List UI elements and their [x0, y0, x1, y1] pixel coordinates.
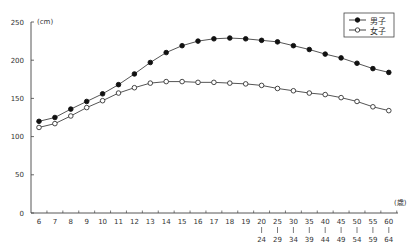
open-circle-marker-icon	[243, 82, 248, 87]
x-tick-label: 16	[194, 218, 203, 226]
chart-legend: 男子 女子	[344, 13, 394, 37]
open-circle-marker-icon	[37, 125, 42, 130]
open-circle-marker-icon	[228, 81, 233, 86]
open-circle-marker-icon	[196, 80, 201, 85]
filled-circle-marker-icon	[69, 107, 74, 112]
open-circle-marker-icon	[275, 86, 280, 91]
open-circle-marker-icon	[259, 83, 264, 88]
open-circle-marker-icon	[164, 79, 169, 84]
filled-circle-marker-icon	[307, 47, 312, 52]
y-tick-label: 0	[20, 210, 24, 218]
open-circle-marker-icon	[339, 95, 344, 100]
chart-series	[37, 36, 391, 130]
x-tick-label: 20	[257, 218, 266, 226]
y-tick-label: 250	[11, 19, 24, 27]
x-tick-label: 45	[337, 218, 346, 226]
x-tick-label: 9	[84, 218, 88, 226]
y-axis-unit: (cm)	[37, 18, 53, 26]
x-tick-label: 14	[162, 218, 171, 226]
y-tick-label: 100	[11, 133, 24, 141]
x-tick-label: 17	[209, 218, 218, 226]
open-circle-marker-icon	[69, 114, 74, 119]
x-tick-label: 8	[69, 218, 73, 226]
filled-circle-marker-icon	[275, 40, 280, 45]
filled-circle-marker-icon	[291, 43, 296, 48]
open-circle-marker-icon	[100, 98, 105, 103]
legend-male-marker-icon	[355, 18, 359, 22]
filled-circle-marker-icon	[84, 99, 89, 104]
x-tick-label-end: 54	[353, 236, 362, 244]
x-tick-label: 25	[273, 218, 282, 226]
open-circle-marker-icon	[323, 92, 328, 97]
x-tick-label: 60	[384, 218, 393, 226]
x-tick-label: 13	[146, 218, 155, 226]
y-tick-label: 150	[11, 95, 24, 103]
line-chart: 0501001502002506789101112131415161718192…	[0, 0, 413, 252]
open-circle-marker-icon	[212, 80, 217, 85]
x-tick-label-end: 24	[257, 236, 266, 244]
x-tick-label: 6	[37, 218, 42, 226]
x-tick-label: 19	[241, 218, 250, 226]
x-tick-label: 50	[353, 218, 362, 226]
filled-circle-marker-icon	[116, 82, 121, 87]
open-circle-marker-icon	[371, 105, 376, 110]
open-circle-marker-icon	[180, 79, 185, 84]
filled-circle-marker-icon	[243, 37, 248, 42]
filled-circle-marker-icon	[371, 66, 376, 71]
filled-circle-marker-icon	[148, 60, 153, 65]
filled-circle-marker-icon	[132, 72, 137, 77]
legend-female-label: 女子	[370, 26, 386, 36]
open-circle-marker-icon	[53, 121, 58, 126]
open-circle-marker-icon	[307, 91, 312, 96]
x-tick-label: 7	[53, 218, 57, 226]
x-axis-unit: (歳)	[394, 198, 407, 207]
x-tick-label-end: 39	[305, 236, 314, 244]
filled-circle-marker-icon	[37, 119, 42, 124]
open-circle-marker-icon	[355, 99, 360, 104]
legend-male-label: 男子	[370, 17, 386, 26]
open-circle-marker-icon	[116, 91, 121, 96]
x-tick-label-end: 44	[321, 236, 330, 244]
series-line-female	[39, 82, 389, 128]
filled-circle-marker-icon	[164, 50, 169, 55]
legend-box	[344, 13, 394, 37]
x-tick-label: 15	[178, 218, 187, 226]
filled-circle-marker-icon	[53, 115, 58, 120]
filled-circle-marker-icon	[323, 52, 328, 57]
filled-circle-marker-icon	[212, 37, 217, 42]
y-tick-label: 200	[11, 57, 24, 65]
x-tick-label: 11	[114, 218, 123, 226]
filled-circle-marker-icon	[180, 43, 185, 48]
y-tick-label: 50	[15, 171, 24, 179]
filled-circle-marker-icon	[387, 70, 392, 75]
legend-female-marker-icon	[355, 28, 359, 32]
x-tick-label: 55	[368, 218, 377, 226]
x-tick-label: 35	[305, 218, 314, 226]
filled-circle-marker-icon	[196, 39, 201, 44]
x-tick-label: 40	[321, 218, 330, 226]
x-tick-label: 30	[289, 218, 298, 226]
x-tick-label: 18	[225, 218, 234, 226]
chart-axes: 0501001502002506789101112131415161718192…	[11, 19, 398, 245]
x-tick-label-end: 34	[289, 236, 298, 244]
open-circle-marker-icon	[387, 108, 392, 113]
x-tick-label-end: 29	[273, 236, 282, 244]
filled-circle-marker-icon	[100, 92, 105, 97]
open-circle-marker-icon	[84, 105, 89, 110]
open-circle-marker-icon	[291, 88, 296, 93]
open-circle-marker-icon	[148, 81, 153, 86]
x-tick-label-end: 64	[384, 236, 393, 244]
x-tick-label: 10	[98, 218, 107, 226]
filled-circle-marker-icon	[259, 38, 264, 43]
x-tick-label-end: 49	[337, 236, 346, 244]
x-tick-label: 12	[130, 218, 139, 226]
filled-circle-marker-icon	[339, 56, 344, 61]
open-circle-marker-icon	[132, 85, 137, 90]
filled-circle-marker-icon	[228, 36, 233, 41]
filled-circle-marker-icon	[355, 61, 360, 66]
x-tick-label-end: 59	[368, 236, 377, 244]
